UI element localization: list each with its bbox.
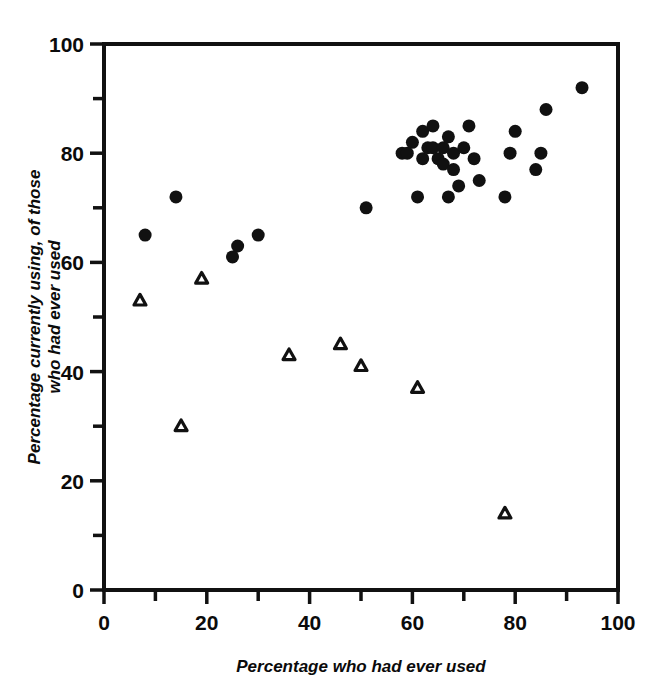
data-point-circle [529,163,542,176]
data-point-circle [457,141,470,154]
data-point-circle [442,130,455,143]
data-point-circle [426,119,439,132]
x-tick-label: 60 [401,611,424,634]
data-point-circle [139,229,152,242]
data-point-circle [509,125,522,138]
x-tick-label: 100 [600,611,635,634]
y-axis-title-line: Percentage currently using, of those [25,170,44,465]
y-axis-title-line: who had ever used [45,240,64,394]
axis-titles: Percentage who had ever usedPercentage c… [25,170,486,676]
data-point-circle [406,136,419,149]
axes [104,44,618,590]
data-points [134,81,589,518]
data-point-circle [540,103,553,116]
data-point-circle [504,147,517,160]
scatter-plot-figure: 020406080100020406080100 Percentage who … [0,0,650,681]
y-tick-label: 100 [49,33,84,56]
data-point-circle [252,229,265,242]
x-tick-label: 40 [298,611,321,634]
data-point-circle [447,163,460,176]
data-point-triangle [499,507,511,518]
data-point-circle [473,174,486,187]
y-axis-title: Percentage currently using, of thosewho … [25,170,64,465]
y-tick-label: 40 [61,361,84,384]
scatter-plot-canvas: 020406080100020406080100 Percentage who … [0,0,650,681]
data-point-circle [411,190,424,203]
data-point-circle [534,147,547,160]
data-point-circle [576,81,589,94]
y-tick-label: 0 [72,579,84,602]
plot-frame [104,44,618,590]
data-point-triangle [355,360,367,371]
data-point-circle [498,190,511,203]
data-point-circle [442,190,455,203]
series-open-triangle [134,273,511,518]
x-tick-label: 20 [195,611,218,634]
data-point-circle [231,240,244,253]
data-point-triangle [412,382,424,393]
x-tick-label: 80 [504,611,527,634]
y-tick-label: 60 [61,251,84,274]
y-tick-label: 80 [61,142,84,165]
data-point-triangle [283,349,295,360]
x-tick-label: 0 [98,611,110,634]
data-point-triangle [175,420,187,431]
y-tick-label: 20 [61,470,84,493]
data-point-triangle [334,338,346,349]
series-filled-circle [139,81,589,263]
axis-ticks [90,44,618,604]
data-point-triangle [134,294,146,305]
axis-tick-labels: 020406080100020406080100 [49,33,636,634]
data-point-circle [462,119,475,132]
data-point-circle [468,152,481,165]
data-point-triangle [196,273,208,284]
data-point-circle [452,179,465,192]
x-axis-title: Percentage who had ever used [236,657,486,676]
data-point-circle [360,201,373,214]
data-point-circle [169,190,182,203]
